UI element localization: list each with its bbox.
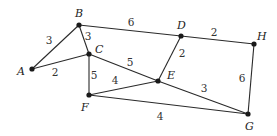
node-label-c: C: [95, 43, 104, 56]
edge-weight-c-f: 5: [91, 69, 98, 81]
edge-f-g: [89, 95, 248, 114]
node-g: [245, 111, 250, 116]
node-label-g: G: [245, 120, 254, 133]
edge-weight-b-d: 6: [128, 16, 135, 28]
edge-c-e: [89, 54, 158, 81]
node-a: [29, 66, 34, 71]
node-label-a: A: [16, 65, 25, 78]
edge-weight-f-g: 4: [157, 110, 164, 122]
node-b: [76, 22, 81, 27]
edge-f-e: [89, 81, 158, 95]
edge-h-g: [248, 44, 254, 114]
node-label-h: H: [256, 30, 267, 43]
node-h: [251, 41, 256, 46]
node-f: [86, 92, 91, 97]
node-d: [178, 33, 183, 38]
edge-weight-h-g: 6: [239, 72, 246, 84]
graph-edges: [32, 25, 254, 114]
edge-weight-d-h: 2: [211, 26, 218, 38]
node-label-b: B: [74, 7, 83, 20]
edge-weight-a-b: 3: [46, 34, 53, 46]
edge-d-h: [181, 36, 254, 44]
node-label-e: E: [166, 69, 175, 82]
edge-weight-e-g: 3: [201, 82, 208, 94]
node-label-f: F: [80, 101, 89, 114]
edge-weight-f-e: 4: [112, 74, 119, 86]
node-e: [155, 78, 160, 83]
node-c: [86, 51, 91, 56]
edge-weight-d-e: 2: [179, 47, 186, 59]
node-label-d: D: [176, 19, 186, 32]
edge-weight-a-c: 2: [52, 66, 59, 78]
edge-weight-b-c: 3: [85, 30, 92, 42]
graph-nodes: [29, 22, 256, 116]
edge-weight-c-e: 5: [127, 56, 134, 68]
weighted-graph-diagram: 323655224346 ABCDEFGH: [0, 0, 277, 136]
